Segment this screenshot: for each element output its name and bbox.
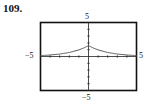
axes — [41, 23, 137, 91]
graph-plot — [0, 0, 148, 106]
